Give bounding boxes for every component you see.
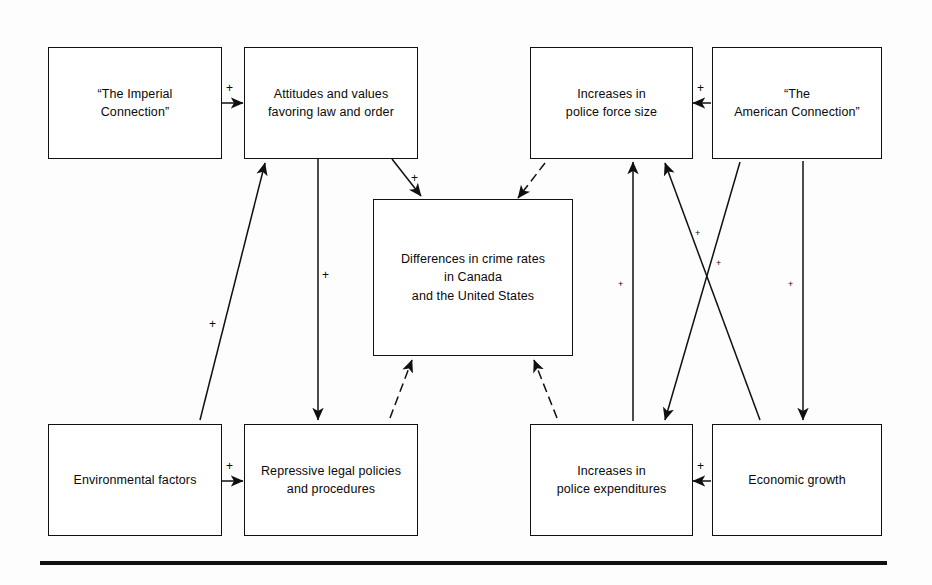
node-label: Attitudes and values favoring law and or… (262, 85, 400, 121)
node-label: “The American Connection” (728, 85, 866, 121)
sign-economic-policeforce: + (695, 229, 700, 238)
sign-environment-repressive: + (226, 460, 233, 472)
edge-environment-to-attitudes (200, 163, 265, 420)
sign-policeforce-expenditures: + (716, 259, 721, 268)
edge-repressive-to-crimerates (390, 360, 412, 418)
node-label: Economic growth (742, 471, 851, 489)
node-label: “The Imperial Connection” (92, 85, 179, 121)
node-imperial-connection[interactable]: “The Imperial Connection” (48, 47, 222, 159)
sign-economic-expenditures: + (697, 460, 704, 472)
edge-economic-to-policeforce (665, 163, 760, 420)
edge-policeforce-to-expenditures (665, 162, 740, 420)
node-attitudes-and-values[interactable]: Attitudes and values favoring law and or… (244, 47, 418, 159)
node-label: Increases in police force size (560, 85, 663, 121)
sign-environment-attitudes: + (209, 318, 216, 330)
node-differences-in-crime-rates[interactable]: Differences in crime rates in Canada and… (373, 199, 573, 356)
node-label: Environmental factors (68, 471, 203, 489)
sign-expenditures-policeforce: + (618, 280, 623, 289)
sign-american-economic: + (788, 280, 793, 289)
node-label: Differences in crime rates in Canada and… (395, 250, 551, 304)
sign-american-policeforce: + (697, 82, 704, 94)
node-economic-growth[interactable]: Economic growth (712, 424, 882, 536)
node-police-expenditures[interactable]: Increases in police expenditures (530, 424, 693, 536)
node-environmental-factors[interactable]: Environmental factors (48, 424, 222, 536)
edge-expenditures-to-crimerates (534, 360, 557, 418)
sign-imperial-attitudes: + (226, 82, 233, 94)
node-police-force-size[interactable]: Increases in police force size (530, 47, 693, 159)
diagram-canvas: “The Imperial Connection” Attitudes and … (0, 0, 932, 585)
node-label: Repressive legal policies and procedures (255, 462, 407, 498)
sign-attitudes-crimerates: + (411, 172, 418, 184)
node-american-connection[interactable]: “The American Connection” (712, 47, 882, 159)
bottom-divider-rule (40, 561, 887, 565)
edge-policeforce-to-crimerates (518, 163, 545, 198)
node-repressive-legal-policies[interactable]: Repressive legal policies and procedures (244, 424, 418, 536)
node-label: Increases in police expenditures (551, 462, 673, 498)
sign-attitudes-repressive: + (322, 269, 329, 281)
